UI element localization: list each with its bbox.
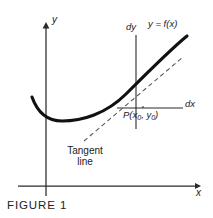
point-marker [142, 106, 144, 108]
tangent-line [84, 57, 183, 141]
point-label-part1: P(x [123, 109, 137, 120]
figure-container: y x dy dx y = f(x) P(x0, y0) Tangentline… [0, 0, 213, 218]
point-label: P(x0, y0) [123, 110, 158, 120]
dx-axis-label: dx [185, 99, 195, 109]
tangent-line-diagram [0, 0, 213, 218]
x-axis-label: x [196, 188, 201, 199]
point-label-sub2: 0 [151, 114, 155, 121]
point-label-part3: ) [155, 109, 158, 120]
dy-axis-label: dy [126, 22, 136, 32]
tangent-annotation-line1: Tangent [67, 145, 103, 156]
y-axis-label: y [52, 15, 57, 26]
curve-equation-label: y = f(x) [148, 19, 177, 29]
point-label-sub1: 0 [137, 114, 141, 121]
tangent-line-annotation: Tangentline [57, 146, 113, 167]
tangent-annotation-line2: line [57, 157, 113, 168]
point-label-part2: , y [141, 109, 151, 120]
figure-caption: FIGURE 1 [7, 199, 67, 211]
